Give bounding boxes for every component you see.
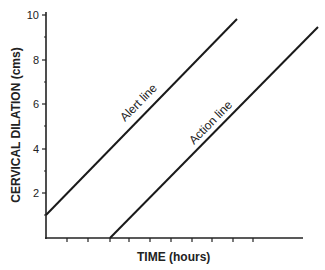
alert-line-label: Alert line: [117, 81, 160, 124]
y-tick-8: 8: [33, 54, 39, 66]
x-axis-label: TIME (hours): [137, 250, 210, 264]
partograph-chart: 10 8 6 4 2 Alert line Action line: [0, 0, 325, 270]
y-tick-6: 6: [33, 98, 39, 110]
y-tick-2: 2: [33, 187, 39, 199]
y-tick-10: 10: [27, 9, 39, 21]
y-tick-labels: 10 8 6 4 2: [27, 9, 39, 199]
action-line: [110, 27, 318, 238]
action-line-label: Action line: [186, 98, 235, 148]
y-tick-4: 4: [33, 143, 39, 155]
y-axis-label: CERVICAL DILATION (cms): [9, 47, 23, 202]
